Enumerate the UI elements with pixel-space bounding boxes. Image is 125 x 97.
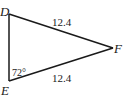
vertex-label-E: E [0,83,9,97]
side-length-EF: 12.4 [52,72,72,84]
vertex-label-D: D [0,4,10,19]
angle-label-E: 72° [12,67,26,78]
side-length-DF: 12.4 [52,16,72,28]
triangle-diagram: D E F 12.4 12.4 72° [0,0,125,97]
vertex-label-F: F [113,41,123,56]
